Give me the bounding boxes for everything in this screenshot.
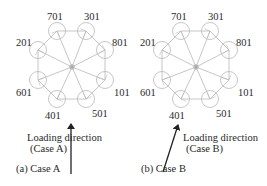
node-label-501-b: 501 — [216, 108, 232, 119]
loading-direction-case-a: (Case A) — [30, 143, 67, 154]
node-detail-301-b — [204, 29, 210, 38]
node-detail-601-a — [38, 78, 45, 86]
center-dot-b — [195, 66, 197, 68]
node-label-301-a: 301 — [84, 11, 100, 22]
node-detail-301-a — [80, 29, 86, 38]
node-detail-201-a — [35, 50, 44, 55]
node-label-601-a: 601 — [16, 87, 32, 98]
node-label-401-b: 401 — [169, 110, 185, 121]
diagram-canvas — [0, 0, 267, 186]
node-label-801-a: 801 — [112, 37, 128, 48]
node-label-801-b: 801 — [236, 37, 252, 48]
node-label-101-a: 101 — [114, 87, 130, 98]
loading-direction-label-a: Loading direction — [27, 132, 102, 143]
center-dot-a — [71, 66, 73, 68]
node-detail-101-b — [222, 74, 231, 80]
node-label-201-a: 201 — [16, 37, 32, 48]
node-label-301-b: 301 — [208, 11, 224, 22]
caption-case-b: (b) Case B — [141, 163, 186, 174]
node-label-501-a: 501 — [92, 108, 108, 119]
node-label-201-b: 201 — [140, 37, 156, 48]
loading-direction-label-b: Loading direction — [183, 132, 258, 143]
node-label-401-a: 401 — [45, 110, 61, 121]
node-label-601-b: 601 — [140, 87, 156, 98]
node-label-701-a: 701 — [47, 11, 63, 22]
node-label-101-b: 101 — [238, 87, 254, 98]
node-detail-601-b — [162, 78, 169, 86]
node-detail-201-b — [159, 50, 168, 55]
node-label-701-b: 701 — [171, 11, 187, 22]
caption-case-a: (a) Case A — [16, 163, 60, 174]
loading-direction-case-b: (Case B) — [186, 143, 223, 154]
node-detail-101-a — [98, 74, 107, 80]
